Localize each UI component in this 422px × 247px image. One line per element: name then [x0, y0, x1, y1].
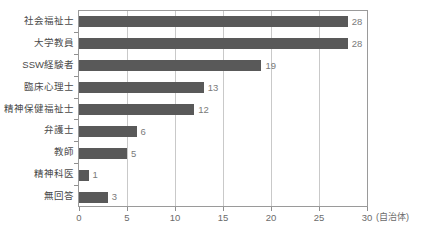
bar — [79, 82, 204, 93]
bar-row: 6 — [79, 120, 367, 142]
bar — [79, 16, 348, 27]
bar-row: 12 — [79, 99, 367, 121]
bar-row: 13 — [79, 77, 367, 99]
category-label: SSW経験者 — [0, 60, 74, 70]
x-axis-tick — [223, 207, 224, 211]
category-label: 精神保健福祉士 — [0, 104, 74, 114]
bar-value-label: 3 — [112, 192, 117, 202]
bar-value-label: 19 — [265, 61, 276, 71]
bar-value-label: 28 — [352, 39, 363, 49]
bar — [79, 60, 261, 71]
x-axis-tick-label: 0 — [76, 213, 81, 223]
bar — [79, 148, 127, 159]
bar-rows: 28281913126513 — [79, 11, 367, 206]
category-label: 精神科医 — [0, 169, 74, 179]
x-axis-tick-label: 15 — [218, 213, 229, 223]
category-label: 臨床心理士 — [0, 82, 74, 92]
x-axis-tick-label: 30 — [362, 213, 373, 223]
bar — [79, 38, 348, 49]
bar — [79, 126, 137, 137]
bar — [79, 192, 108, 203]
category-label: 教師 — [0, 148, 74, 158]
x-axis-tick — [367, 207, 368, 211]
bar-value-label: 5 — [131, 149, 136, 159]
bar-row: 1 — [79, 164, 367, 186]
bar-value-label: 12 — [198, 105, 209, 115]
x-axis-tick-label: 5 — [124, 213, 129, 223]
bar-row: 3 — [79, 186, 367, 208]
bar-value-label: 1 — [93, 170, 98, 180]
bar-value-label: 6 — [141, 127, 146, 137]
bar-value-label: 28 — [352, 17, 363, 27]
x-axis-tick — [79, 207, 80, 211]
x-axis-tick — [271, 207, 272, 211]
bar-row: 19 — [79, 55, 367, 77]
bar — [79, 104, 194, 115]
x-axis-tick — [175, 207, 176, 211]
category-label: 弁護士 — [0, 126, 74, 136]
x-axis-tick-label: 25 — [314, 213, 325, 223]
x-axis-tick-label: 10 — [170, 213, 181, 223]
category-label: 社会福祉士 — [0, 16, 74, 26]
x-axis-tick — [127, 207, 128, 211]
bar-value-label: 13 — [208, 83, 219, 93]
bar — [79, 170, 89, 181]
category-axis-labels: 社会福祉士大学教員SSW経験者臨床心理士精神保健福祉士弁護士教師精神科医無回答 — [0, 10, 74, 207]
category-label: 無回答 — [0, 191, 74, 201]
x-axis-tick-label: 20 — [266, 213, 277, 223]
plot-area: 28281913126513 — [78, 10, 368, 207]
bar-row: 28 — [79, 33, 367, 55]
bar-chart: 社会福祉士大学教員SSW経験者臨床心理士精神保健福祉士弁護士教師精神科医無回答 … — [0, 0, 422, 247]
bar-row: 5 — [79, 142, 367, 164]
bar-row: 28 — [79, 11, 367, 33]
x-axis-unit-label: (自治体) — [376, 213, 409, 222]
category-label: 大学教員 — [0, 38, 74, 48]
x-axis-tick — [319, 207, 320, 211]
